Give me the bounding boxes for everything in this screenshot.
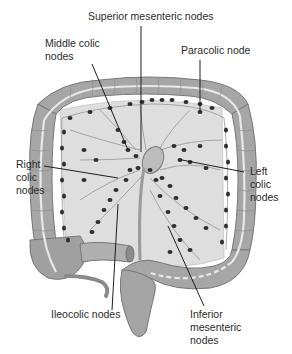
rectum <box>120 270 155 337</box>
label-text: nodes <box>16 184 45 197</box>
label-ileocolic-nodes: Ileocolic nodes <box>51 308 120 321</box>
appendix <box>66 276 107 296</box>
label-inferior-mesenteric-nodes: Inferior mesenteric nodes <box>190 308 241 347</box>
label-left-colic-nodes: Left colic nodes <box>250 165 279 204</box>
colon-lymph-node-diagram: Superior mesenteric nodes Middle colic n… <box>0 0 292 354</box>
label-text: Ileocolic nodes <box>51 308 120 320</box>
label-text: Middle colic <box>45 37 100 50</box>
terminal-ileum <box>80 242 130 262</box>
label-right-colic-nodes: Right colic nodes <box>16 158 45 197</box>
label-middle-colic-nodes: Middle colic nodes <box>45 37 100 63</box>
label-text: Inferior <box>190 308 241 321</box>
label-text: Left <box>250 165 279 178</box>
label-paracolic-node: Paracolic node <box>181 44 250 57</box>
label-text: nodes <box>45 50 100 63</box>
cecum <box>30 236 86 279</box>
label-text: nodes <box>250 191 279 204</box>
label-text: Superior mesenteric nodes <box>88 10 213 22</box>
label-text: Right <box>16 158 45 171</box>
label-text: colic <box>250 178 279 191</box>
label-text: Paracolic node <box>181 44 250 56</box>
label-text: colic <box>16 171 45 184</box>
ileum-opening <box>126 246 134 262</box>
label-text: mesenteric <box>190 321 241 334</box>
label-superior-mesenteric-nodes: Superior mesenteric nodes <box>88 10 213 23</box>
label-text: nodes <box>190 334 241 347</box>
